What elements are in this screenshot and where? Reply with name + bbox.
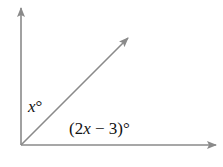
lower-angle-suffix: − 3)° xyxy=(91,119,130,138)
upper-angle-label: x° xyxy=(28,98,42,115)
degree-symbol: ° xyxy=(36,97,43,116)
lower-angle-variable: x xyxy=(83,119,91,138)
upper-angle-variable: x xyxy=(28,97,36,116)
lower-angle-prefix: (2 xyxy=(69,119,83,138)
angle-diagram xyxy=(0,0,223,167)
lower-angle-label: (2x − 3)° xyxy=(69,120,130,137)
